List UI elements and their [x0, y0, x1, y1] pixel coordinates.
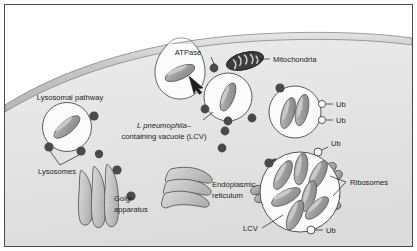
large-lcv-surface-dot	[264, 158, 273, 167]
label-golgi-line1: Golgi	[114, 194, 132, 203]
label-golgi-line2: apparatus	[114, 205, 148, 214]
cell-diagram-canvas: ATPase Mitochondria Lysosomal pathway Ly…	[0, 0, 417, 251]
label-ub-1: Ub	[336, 100, 346, 109]
lcv-surface-dot-4	[221, 127, 230, 136]
ubiquitin-circle-4	[307, 226, 315, 234]
lcv-surface-dot-1	[201, 105, 210, 114]
atpase-dot	[210, 64, 219, 73]
label-ub-4: Ub	[326, 226, 336, 235]
lysosome-dot-3	[76, 146, 85, 155]
label-lysosomes: Lysosomes	[38, 167, 76, 176]
label-lcv-name-line1: L pneumophila–	[137, 121, 192, 130]
lysosome-dot-4	[95, 150, 103, 158]
lysosome-dot-2	[44, 142, 53, 151]
label-lcv-species: L pneumophila	[137, 121, 187, 130]
ubiquitin-circle-2	[318, 116, 325, 123]
label-ub-3: Ub	[331, 139, 341, 148]
label-atpase: ATPase	[175, 48, 201, 57]
label-lysosomal-pathway: Lysosomal pathway	[37, 93, 104, 102]
lysosome-dot-1	[89, 111, 98, 120]
lcv-surface-dot-5	[218, 144, 227, 153]
figure-root: ATPase Mitochondria Lysosomal pathway Ly…	[0, 0, 417, 251]
label-lcv-name-line2: containing vacuole (LCV)	[122, 132, 207, 141]
small-lcv-surface-dot	[275, 83, 284, 92]
label-ub-2: Ub	[336, 116, 346, 125]
label-er-line1: Endoplasmic	[212, 180, 256, 189]
label-lcv-short: LCV	[243, 224, 259, 233]
endoplasmic-reticulum	[161, 167, 212, 208]
lcv-surface-dot-3	[248, 114, 257, 123]
label-er-line2: reticulum	[212, 191, 243, 200]
lcv-surface-dot-2	[224, 117, 233, 126]
ubiquitin-circle-1	[318, 100, 325, 107]
label-mitochondria: Mitochondria	[273, 55, 317, 64]
golgi-apparatus	[78, 164, 118, 228]
label-ribosomes: Ribosomes	[350, 178, 388, 187]
ubiquitin-circle-3	[314, 148, 322, 156]
